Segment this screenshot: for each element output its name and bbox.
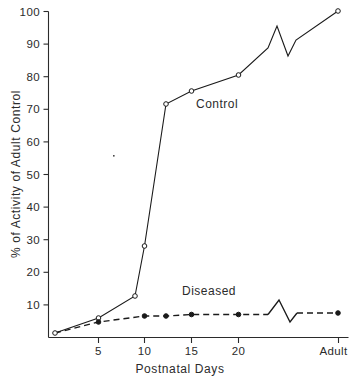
x-axis-title: Postnatal Days (135, 362, 224, 376)
diseased-markers (96, 311, 340, 325)
diseased-line-left (55, 315, 268, 334)
chart-figure: 100 90 80 70 60 50 40 30 20 10 5 10 15 2… (0, 0, 355, 379)
data-point-diseased (336, 311, 341, 316)
data-point-control (336, 9, 341, 14)
x-tick-labels: 5 10 15 20 Adult (95, 345, 348, 357)
data-point-diseased (96, 320, 101, 325)
x-tick-label-10: 10 (138, 345, 152, 357)
print-speck-artifact (113, 155, 115, 157)
data-point-control (236, 73, 241, 78)
data-point-control (133, 294, 138, 299)
y-axis-title: % of Activity of Adult Control (9, 90, 23, 258)
series-label-control: Control (196, 97, 238, 111)
data-point-diseased (164, 314, 169, 319)
y-tick-marks (44, 12, 49, 305)
data-point-control (164, 102, 169, 107)
data-point-diseased (142, 314, 147, 319)
line-chart: 100 90 80 70 60 50 40 30 20 10 5 10 15 2… (0, 0, 355, 379)
y-tick-label-40: 40 (26, 201, 40, 213)
diseased-axis-break (268, 300, 297, 322)
x-tick-label-15: 15 (185, 345, 199, 357)
series-label-diseased: Diseased (182, 284, 236, 298)
y-tick-label-90: 90 (26, 38, 40, 50)
y-tick-label-100: 100 (20, 6, 40, 18)
data-point-control (189, 89, 194, 94)
data-point-diseased (189, 312, 194, 317)
x-tick-label-20: 20 (232, 345, 246, 357)
y-tick-label-30: 30 (26, 234, 40, 246)
y-tick-label-20: 20 (26, 266, 40, 278)
x-tick-marks (99, 338, 339, 344)
data-point-diseased (236, 312, 241, 317)
x-tick-label-5: 5 (95, 345, 102, 357)
data-point-control (53, 331, 58, 336)
y-tick-label-70: 70 (26, 103, 40, 115)
y-tick-label-80: 80 (26, 71, 40, 83)
y-tick-label-10: 10 (26, 299, 40, 311)
y-tick-label-50: 50 (26, 169, 40, 181)
y-tick-label-60: 60 (26, 136, 40, 148)
data-point-control (142, 244, 147, 249)
x-tick-label-adult: Adult (319, 345, 348, 357)
